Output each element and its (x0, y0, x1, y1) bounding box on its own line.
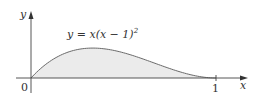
origin-label: 0 (21, 81, 28, 94)
function-label-exponent: 2 (133, 27, 139, 35)
x-axis-label: x (240, 79, 247, 92)
x-tick-label-1: 1 (212, 82, 219, 95)
function-label-main: y = x(x − 1) (66, 28, 134, 41)
function-label: y = x(x − 1)2 (66, 27, 139, 41)
y-axis-arrow-icon (29, 11, 34, 19)
y-axis-label: y (19, 8, 27, 21)
chart: y x 0 1 y = x(x − 1)2 (0, 0, 261, 103)
